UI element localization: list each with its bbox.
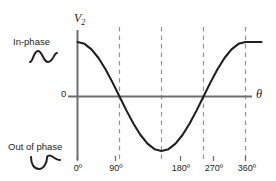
- x-tick-label-360: 360º: [238, 163, 256, 173]
- inverted-sine-wave-icon: [28, 152, 63, 176]
- in-phase-label: In-phase: [13, 37, 50, 47]
- zero-level-label: 0: [61, 89, 66, 99]
- x-tick-label-0: 0º: [74, 163, 82, 173]
- grid-lines: [120, 27, 204, 160]
- x-tick-label-90: 90º: [109, 163, 122, 173]
- x-tick-label-180: 180º: [172, 163, 190, 173]
- sine-wave-icon: [27, 47, 60, 69]
- x-tick-label-270: 270º: [205, 163, 223, 173]
- y-axis-label-subscript: 2: [81, 18, 85, 27]
- x-axis-label: θ: [256, 88, 262, 101]
- out-of-phase-label: Out of phase: [8, 142, 62, 152]
- y-axis-label: V2: [74, 12, 85, 27]
- cosine-phase-chart: In-phase Out of phase V2 θ 0 0º 90º 180º…: [0, 0, 276, 181]
